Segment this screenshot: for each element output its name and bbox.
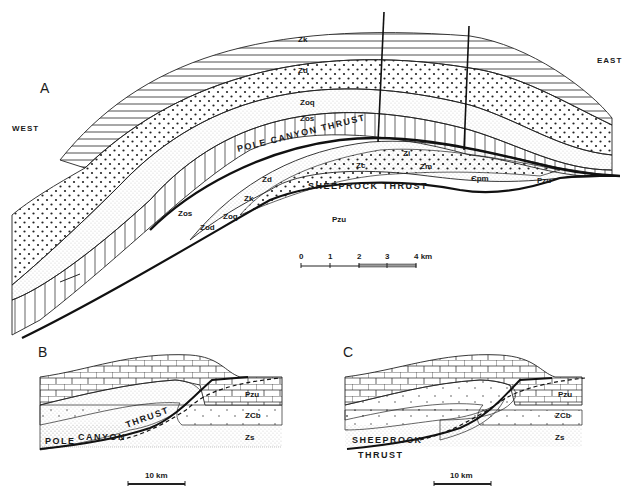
unit-label-zi: Zi xyxy=(403,149,410,158)
scale-tick-0: 0 xyxy=(299,252,304,261)
unit-label-pzu-c: Pzu xyxy=(558,390,572,399)
thrust-word-pole: POLE xyxy=(45,436,76,446)
scale-tick-4: 4 km xyxy=(414,252,432,261)
scale-bar-b: 10 km xyxy=(128,471,185,486)
unit-label-pzu: Pzu xyxy=(332,215,346,224)
east-label: EAST xyxy=(597,56,622,65)
scale-tick-3: 3 xyxy=(385,252,390,261)
thrust-word-sheeprock: SHEEPROCK xyxy=(352,435,423,445)
unit-label-zk: Zk xyxy=(298,35,308,44)
unit-label-zos-lower: Zos xyxy=(178,209,193,218)
unit-label-zod: Zod xyxy=(200,223,215,232)
panel-a-label: A xyxy=(40,80,50,96)
sheeprock-thrust-label: SHEEPROCK THRUST xyxy=(308,181,428,191)
unit-label-zoq: Zoq xyxy=(300,98,315,107)
unit-label-pzu-b: Pzu xyxy=(245,390,259,399)
unit-label-pzu-small: Pzu xyxy=(537,176,551,185)
unit-label-zs-c: Zs xyxy=(555,433,565,442)
thrust-word-canyon: CANYON xyxy=(78,432,126,442)
west-label: WEST xyxy=(12,124,39,133)
panel-a: A WEST EAST Zk Zd Zoq Zos POLE CANYON TH… xyxy=(12,12,622,338)
unit-label-zos: Zos xyxy=(300,114,315,123)
unit-label-zk-lower: Zk xyxy=(244,194,254,203)
unit-label-zd-lower: Zd xyxy=(262,175,272,184)
unit-label-zoq-lower: Zoq xyxy=(223,212,238,221)
unit-label-zd: Zd xyxy=(298,66,308,75)
scale-label-b: 10 km xyxy=(145,471,168,480)
unit-label-zm: Zm xyxy=(420,162,432,171)
scale-tick-1: 1 xyxy=(328,252,333,261)
scale-bar-a: 0 1 2 3 4 km xyxy=(299,252,432,268)
scale-tick-2: 2 xyxy=(357,252,362,261)
scale-bar-c: 10 km xyxy=(434,471,491,486)
panel-c-label: C xyxy=(343,344,353,360)
thrust-word-thrust-c: THRUST xyxy=(358,450,404,460)
unit-label-zcb-b: ZCb xyxy=(245,411,261,420)
unit-label-zcb-c: ZCb xyxy=(555,411,571,420)
unit-label-zs-b: Zs xyxy=(245,433,255,442)
panel-b: B POLE CANYON THRUST Pzu ZCb Zs 10 km xyxy=(38,344,282,486)
unit-label-cpm: Єpm xyxy=(471,174,489,183)
geologic-cross-sections: A WEST EAST Zk Zd Zoq Zos POLE CANYON TH… xyxy=(0,0,634,493)
panel-b-label: B xyxy=(38,344,47,360)
scale-label-c: 10 km xyxy=(450,471,473,480)
panel-c: C SHEEPROCK THRUST Pzu ZCb Zs 10 km xyxy=(343,344,585,486)
unit-label-zc: Zc xyxy=(356,161,366,170)
